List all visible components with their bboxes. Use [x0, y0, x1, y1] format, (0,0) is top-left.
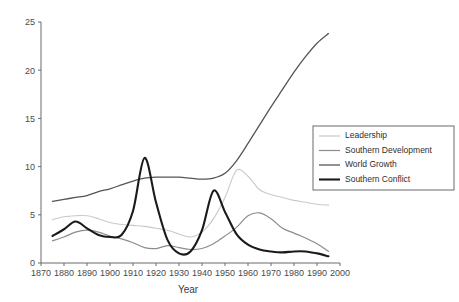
x-tick-label: 2000 [330, 268, 350, 278]
chart-legend: LeadershipSouthern DevelopmentWorld Grow… [313, 126, 454, 190]
x-tick-label: 1970 [261, 268, 281, 278]
series-lines [53, 34, 329, 257]
y-tick-label: 15 [25, 114, 35, 124]
x-tick-label: 1870 [31, 268, 51, 278]
x-tick-label: 1950 [215, 268, 235, 278]
legend-label: World Growth [345, 159, 397, 169]
legend-label: Southern Development [345, 145, 433, 155]
series-line-world-growth [53, 34, 329, 202]
axes: 0510152025187018801890190019101920193019… [25, 17, 350, 278]
legend-label: Leadership [345, 130, 387, 140]
x-tick-label: 1900 [100, 268, 120, 278]
y-tick-label: 25 [25, 17, 35, 27]
series-line-southern-conflict [53, 158, 329, 256]
x-tick-label: 1880 [54, 268, 74, 278]
x-tick-label: 1890 [77, 268, 97, 278]
x-axis-title: Year [178, 284, 199, 295]
x-tick-label: 1990 [307, 268, 327, 278]
line-chart: 0510152025187018801890190019101920193019… [0, 0, 459, 302]
y-tick-label: 20 [25, 66, 35, 76]
x-tick-label: 1980 [284, 268, 304, 278]
x-tick-label: 1930 [169, 268, 189, 278]
x-tick-label: 1940 [192, 268, 212, 278]
x-tick-label: 1920 [146, 268, 166, 278]
y-tick-label: 5 [30, 210, 35, 220]
y-tick-label: 0 [30, 258, 35, 268]
y-tick-label: 10 [25, 162, 35, 172]
chart-canvas: 0510152025187018801890190019101920193019… [0, 0, 459, 302]
legend-label: Southern Conflict [345, 174, 411, 184]
series-line-leadership [53, 169, 329, 237]
x-tick-label: 1960 [238, 268, 258, 278]
x-tick-label: 1910 [123, 268, 143, 278]
